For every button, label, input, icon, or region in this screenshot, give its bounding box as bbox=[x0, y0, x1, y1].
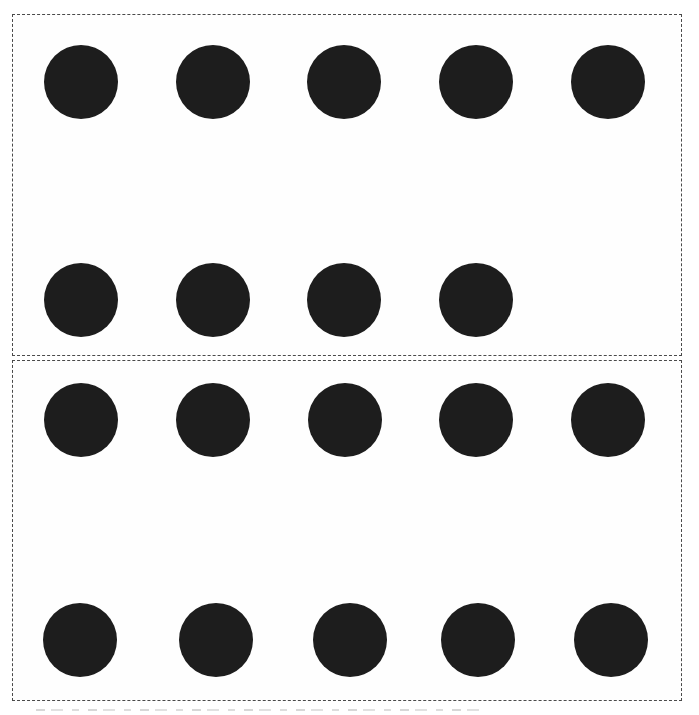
dot bbox=[308, 383, 382, 457]
dot bbox=[441, 603, 515, 677]
dot bbox=[43, 603, 117, 677]
dot bbox=[439, 263, 513, 337]
clipped-caption-letter-tops bbox=[36, 709, 488, 711]
dot bbox=[571, 383, 645, 457]
dot bbox=[176, 383, 250, 457]
dot bbox=[179, 603, 253, 677]
dot bbox=[571, 45, 645, 119]
dot bbox=[44, 263, 118, 337]
dot bbox=[44, 383, 118, 457]
dot bbox=[307, 263, 381, 337]
dot bbox=[313, 603, 387, 677]
dot bbox=[307, 45, 381, 119]
clipped-caption-fragment bbox=[36, 709, 488, 713]
dot bbox=[176, 45, 250, 119]
dot bbox=[439, 45, 513, 119]
figure-canvas bbox=[0, 0, 699, 715]
dot bbox=[439, 383, 513, 457]
dot bbox=[176, 263, 250, 337]
dot bbox=[44, 45, 118, 119]
dot bbox=[574, 603, 648, 677]
